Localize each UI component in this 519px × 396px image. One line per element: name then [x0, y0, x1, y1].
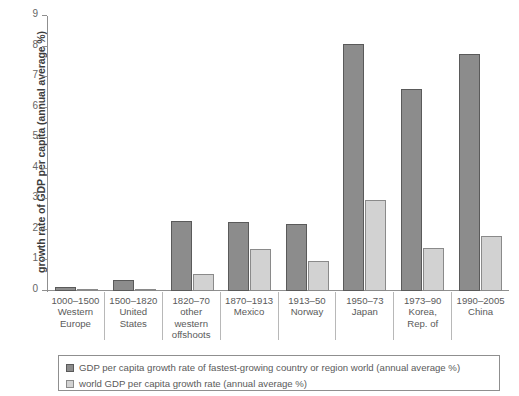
x-axis-label-line: 1000–1500 — [47, 295, 104, 306]
legend-item: world GDP per capita growth rate (annual… — [66, 377, 499, 390]
legend-label: GDP per capita growth rate of fastest-gr… — [79, 362, 460, 373]
bars-layer — [48, 16, 509, 291]
y-axis-tick-label: 9 — [32, 8, 38, 19]
legend-swatch-icon — [66, 380, 74, 388]
bar — [135, 289, 156, 291]
bar-group — [336, 16, 394, 291]
x-axis-label-line: United — [105, 306, 162, 317]
x-axis-label-line: Japan — [336, 306, 393, 317]
x-axis-category-label: 1973–90Korea,Rep. of — [393, 292, 451, 340]
y-axis-tick: 5 — [42, 137, 47, 138]
y-axis-tick-label: 1 — [32, 252, 38, 263]
x-axis-category-label: 1500–1820UnitedStates — [104, 292, 162, 340]
bar-group — [106, 16, 164, 291]
bar — [459, 54, 480, 291]
y-axis-tick-label: 6 — [32, 100, 38, 111]
x-axis-category-label: 1950–73Japan — [335, 292, 393, 340]
y-axis-tick: 0 — [42, 290, 47, 291]
bar — [365, 200, 386, 291]
x-axis-label-line: States — [105, 318, 162, 329]
y-axis-tick-label: 2 — [32, 222, 38, 233]
y-axis-tick: 8 — [42, 46, 47, 47]
x-axis-label-line: 1990–2005 — [452, 295, 509, 306]
x-axis-label-line: 1870–1913 — [221, 295, 278, 306]
legend-swatch-icon — [66, 364, 74, 372]
x-axis-label-line: Mexico — [221, 306, 278, 317]
x-axis-label-line: Norway — [279, 306, 336, 317]
bar — [481, 236, 502, 291]
y-axis-tick-label: 5 — [32, 130, 38, 141]
x-axis-label-line: China — [452, 306, 509, 317]
x-axis-label-line: 1913–50 — [279, 295, 336, 306]
bar — [286, 224, 307, 291]
x-axis-category-label: 1913–50Norway — [278, 292, 336, 340]
x-axis-label-line: other — [163, 306, 220, 317]
legend-label: world GDP per capita growth rate (annual… — [79, 378, 307, 389]
x-axis-category-label: 1000–1500WesternEurope — [47, 292, 104, 340]
y-axis-tick: 4 — [42, 168, 47, 169]
x-axis-label-line: western — [163, 318, 220, 329]
bar — [250, 249, 271, 291]
x-axis-label-line: Korea, — [394, 306, 451, 317]
x-axis-label-line: Europe — [47, 318, 104, 329]
y-axis-tick-label: 8 — [32, 39, 38, 50]
bar-chart: growth rate of GDP per capita (annual av… — [0, 0, 519, 396]
y-axis-tick-label: 4 — [32, 161, 38, 172]
x-axis-label-line: Western — [47, 306, 104, 317]
x-axis-label-line: 1500–1820 — [105, 295, 162, 306]
x-axis-label-line: 1820–70 — [163, 295, 220, 306]
bar-group — [163, 16, 221, 291]
bar — [77, 289, 98, 291]
x-axis-category-label: 1870–1913Mexico — [220, 292, 278, 340]
bar — [228, 222, 249, 291]
x-axis-label-line: offshoots — [163, 329, 220, 340]
bar-group — [221, 16, 279, 291]
x-axis-category-label: 1820–70otherwesternoffshoots — [162, 292, 220, 340]
y-axis-tick-label: 7 — [32, 69, 38, 80]
bar-group — [48, 16, 106, 291]
x-axis-label-line: 1973–90 — [394, 295, 451, 306]
bar — [423, 248, 444, 291]
bar — [401, 89, 422, 291]
bar — [193, 274, 214, 291]
bar-group — [451, 16, 509, 291]
y-axis-tick-label: 3 — [32, 191, 38, 202]
plot-area: 0123456789 — [47, 16, 509, 291]
bar — [343, 44, 364, 292]
x-axis-category-label: 1990–2005China — [451, 292, 509, 340]
y-axis-tick: 3 — [42, 198, 47, 199]
bar — [308, 261, 329, 291]
x-axis-label-line: 1950–73 — [336, 295, 393, 306]
bar — [113, 280, 134, 291]
x-axis-category-labels: 1000–1500WesternEurope1500–1820UnitedSta… — [47, 292, 509, 340]
bar — [171, 221, 192, 291]
y-axis-tick: 9 — [42, 15, 47, 16]
x-axis-label-line: Rep. of — [394, 318, 451, 329]
y-axis-tick: 1 — [42, 259, 47, 260]
bar — [55, 287, 76, 291]
y-axis-tick: 2 — [42, 229, 47, 230]
bar-group — [394, 16, 452, 291]
y-axis-tick-label: 0 — [32, 283, 38, 294]
y-axis-tick: 7 — [42, 76, 47, 77]
legend: GDP per capita growth rate of fastest-gr… — [58, 355, 500, 391]
bar-group — [279, 16, 337, 291]
y-axis-tick: 6 — [42, 107, 47, 108]
legend-item: GDP per capita growth rate of fastest-gr… — [66, 361, 499, 374]
